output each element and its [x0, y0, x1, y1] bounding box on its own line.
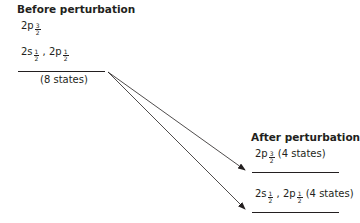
after-lower-label: 2s12 , 2p12 (4 states) [255, 188, 354, 204]
fraction-den: 2 [297, 198, 303, 204]
term-base: 2p [283, 188, 296, 199]
arrow-to-lower-level [108, 72, 245, 209]
separator: , [273, 188, 283, 199]
term-base: 2s [255, 188, 267, 199]
after-upper-label: 2p32 (4 states) [255, 148, 326, 164]
after-heading: After perturbation [251, 131, 360, 143]
arrow-to-upper-level [108, 72, 245, 170]
states-count: (4 states) [278, 148, 326, 159]
after-upper-energy-level [252, 172, 339, 173]
fraction: 32 [269, 151, 275, 164]
after-lower-energy-level [252, 212, 339, 213]
fraction: 12 [297, 191, 303, 204]
term-base: 2p [255, 148, 268, 159]
fraction-den: 2 [269, 158, 275, 164]
states-count: (4 states) [306, 188, 354, 199]
